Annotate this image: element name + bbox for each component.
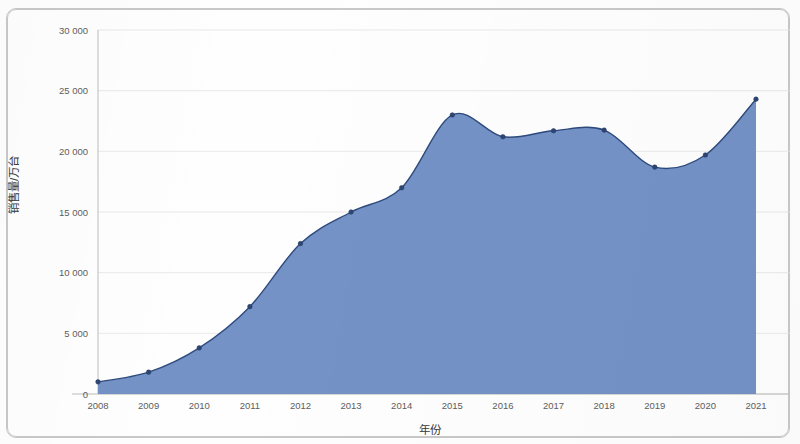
data-point-marker: [96, 380, 101, 385]
x-tick-label: 2011: [240, 400, 260, 411]
data-point-marker: [450, 113, 455, 118]
data-point-marker: [197, 346, 202, 351]
series-area-group: [98, 99, 756, 394]
data-point-marker: [652, 165, 657, 170]
x-tick-label: 2021: [745, 400, 766, 411]
data-point-marker: [349, 210, 354, 215]
x-tick-label: 2008: [87, 400, 108, 411]
y-tick-label: 10 000: [59, 267, 88, 278]
y-axis-title: 销售量/万台: [7, 156, 20, 214]
data-point-marker: [754, 97, 759, 102]
x-tick-label: 2010: [189, 400, 210, 411]
x-tick-label: 2015: [442, 400, 463, 411]
y-tick-label: 25 000: [59, 85, 88, 96]
data-point-marker: [146, 370, 151, 375]
x-tick-label: 2016: [492, 400, 513, 411]
data-point-marker: [551, 128, 556, 133]
y-tick-label: 30 000: [59, 25, 88, 36]
x-tick-label: 2017: [543, 400, 564, 411]
y-tick-label: 5 000: [64, 328, 88, 339]
x-tick-label: 2020: [695, 400, 716, 411]
y-tick-label: 15 000: [59, 207, 88, 218]
x-tick-label: 2012: [290, 400, 311, 411]
x-tick-label: 2019: [644, 400, 665, 411]
y-tick-label: 20 000: [59, 146, 88, 157]
y-tick-label: 0: [83, 389, 88, 400]
x-tick-label: 2014: [391, 400, 412, 411]
x-tick-label: 2013: [341, 400, 362, 411]
x-tick-labels: 2008200920102011201220132014201520162017…: [87, 400, 766, 411]
x-tick-label: 2009: [138, 400, 159, 411]
area-chart: 05 00010 00015 00020 00025 00030 000 200…: [0, 0, 800, 444]
chart-plot-svg: 05 00010 00015 00020 00025 00030 000 200…: [0, 0, 800, 444]
data-point-marker: [399, 185, 404, 190]
data-point-marker: [248, 304, 253, 309]
x-tick-label: 2018: [594, 400, 615, 411]
data-point-marker: [298, 241, 303, 246]
y-tick-labels: 05 00010 00015 00020 00025 00030 000: [59, 25, 88, 400]
chart-screenshot: 05 00010 00015 00020 00025 00030 000 200…: [0, 0, 800, 444]
x-axis-title: 年份: [419, 423, 442, 436]
data-point-marker: [703, 153, 708, 158]
data-point-marker: [602, 128, 607, 133]
data-point-marker: [501, 134, 506, 139]
